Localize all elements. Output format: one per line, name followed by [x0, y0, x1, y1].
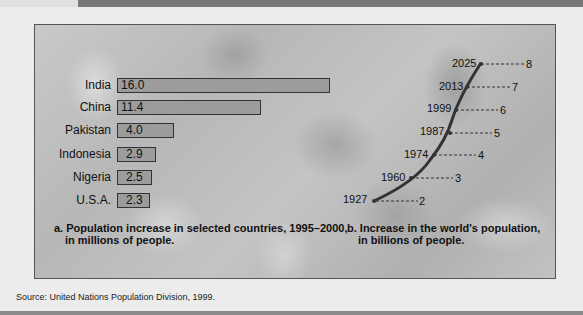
value-label-8: 8 — [526, 58, 532, 70]
value-label-4: 4 — [478, 149, 484, 161]
line-caption-line1: b. Increase in the world's population, — [347, 222, 540, 234]
year-label-1999: 1999 — [427, 102, 451, 114]
bottom-rule — [0, 311, 583, 315]
line-caption-line2: in billions of people. — [347, 234, 540, 246]
value-label-2: 2 — [419, 195, 425, 207]
year-label-1974: 1974 — [404, 148, 428, 160]
value-label-3: 3 — [455, 172, 461, 184]
world-population-line — [0, 0, 583, 315]
year-label-2025: 2025 — [452, 57, 476, 69]
source-note: Source: United Nations Population Divisi… — [16, 292, 215, 302]
year-label-1987: 1987 — [420, 125, 444, 137]
value-label-6: 6 — [500, 104, 506, 116]
year-label-2013: 2013 — [439, 80, 463, 92]
year-label-1960: 1960 — [381, 171, 405, 183]
year-label-1927: 1927 — [343, 193, 367, 205]
value-label-5: 5 — [494, 127, 500, 139]
line-chart-caption: b. Increase in the world's population, i… — [347, 222, 540, 246]
value-label-7: 7 — [512, 81, 518, 93]
